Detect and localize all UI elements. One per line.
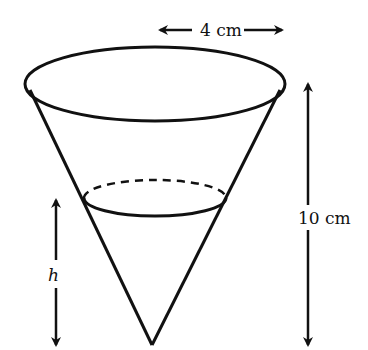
cone-figure (0, 0, 368, 350)
water-surface-front (84, 198, 226, 216)
water-surface-back (84, 180, 226, 198)
water-depth-label: h (48, 264, 59, 287)
cone-right-side (152, 90, 280, 345)
height-label: 10 cm (298, 207, 351, 230)
cone-diagram: 4 cm 10 cm h (0, 0, 368, 350)
radius-label: 4 cm (198, 22, 244, 39)
cone-left-side (30, 90, 152, 345)
cone-rim (25, 47, 285, 121)
